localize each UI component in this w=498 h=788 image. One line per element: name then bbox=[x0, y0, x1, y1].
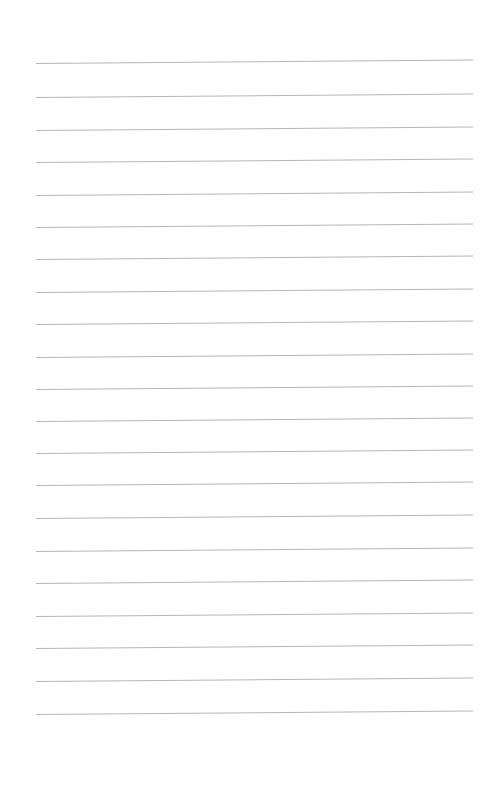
ruled-line bbox=[36, 256, 473, 260]
lined-paper-sheet bbox=[0, 0, 498, 788]
ruled-line bbox=[36, 321, 473, 325]
ruled-line bbox=[36, 450, 473, 454]
ruled-line bbox=[36, 548, 473, 552]
ruled-line bbox=[36, 94, 473, 98]
ruled-line bbox=[36, 678, 473, 682]
ruled-line bbox=[36, 354, 473, 358]
ruled-line bbox=[36, 127, 473, 131]
ruled-line bbox=[36, 515, 473, 519]
ruled-line bbox=[36, 60, 473, 64]
ruled-line bbox=[36, 613, 473, 617]
ruled-line bbox=[36, 159, 473, 163]
ruled-line bbox=[36, 192, 473, 196]
ruled-line bbox=[36, 711, 473, 715]
ruled-line bbox=[36, 418, 473, 422]
ruled-line bbox=[36, 645, 473, 649]
ruled-line bbox=[36, 224, 473, 228]
ruled-line bbox=[36, 386, 473, 390]
ruled-line bbox=[36, 482, 473, 486]
ruled-line bbox=[36, 289, 473, 293]
ruled-line bbox=[36, 580, 473, 584]
